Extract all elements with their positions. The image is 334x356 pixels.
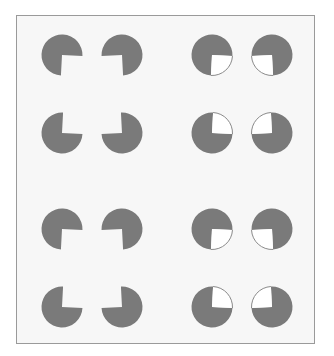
panel-top-right-control xyxy=(192,35,293,154)
pacman-inducer xyxy=(252,113,293,154)
pacman-inducer xyxy=(252,35,293,76)
panel-top-left-kanizsa xyxy=(41,35,142,154)
pacman-inducer xyxy=(41,287,82,328)
pacman-inducer xyxy=(192,113,233,154)
pacman-inducer xyxy=(102,113,143,154)
kanizsa-figure xyxy=(0,0,334,356)
pacman-inducer xyxy=(252,209,293,250)
pacman-inducer xyxy=(42,112,83,153)
panel-bottom-right-control xyxy=(192,209,293,328)
pacman-inducer xyxy=(192,35,233,76)
pacman-inducer xyxy=(102,287,143,328)
pacman-inducer xyxy=(252,287,293,328)
pacman-inducer xyxy=(192,287,233,328)
pacman-inducer xyxy=(41,209,82,250)
pacman-inducer xyxy=(192,209,233,250)
pacman-inducer xyxy=(102,209,143,250)
pacman-inducer xyxy=(41,35,82,76)
panel-bottom-left-kanizsa xyxy=(41,209,142,328)
pacman-inducer xyxy=(102,35,143,76)
